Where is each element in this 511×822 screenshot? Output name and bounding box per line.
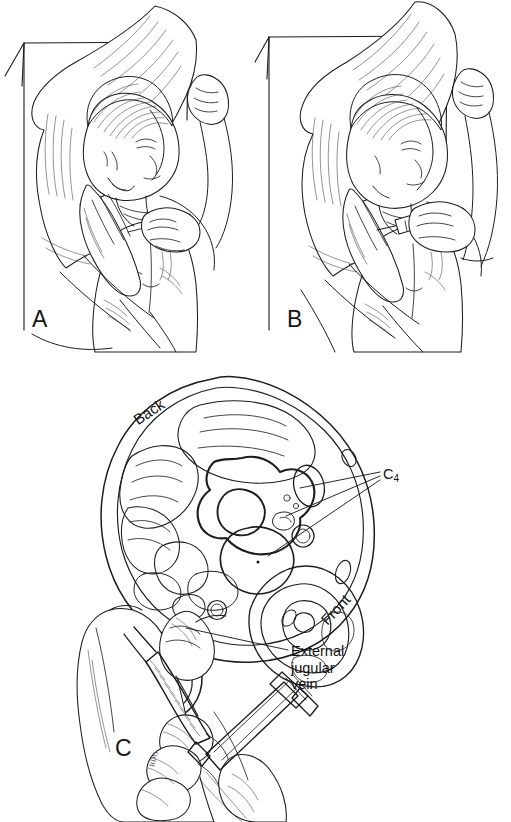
label-c4: C4 xyxy=(383,466,399,485)
panel-c: Back Front C4 External jugular vein BDG … xyxy=(0,360,511,822)
panel-b-letter: B xyxy=(287,306,303,333)
label-ejv-line-3: vein xyxy=(291,676,344,693)
operator-hand-with-syringe xyxy=(77,609,286,822)
panel-a: A xyxy=(0,0,256,352)
thumb xyxy=(219,755,287,822)
panel-c-letter: C xyxy=(115,735,132,762)
panel-a-letter: A xyxy=(32,306,48,333)
figure-cervical-plexus-block: A xyxy=(0,0,511,822)
label-external-jugular-vein: External jugular vein xyxy=(291,643,344,693)
label-c4-text: C xyxy=(383,466,393,482)
panel-b: B xyxy=(255,0,511,352)
vertebra-c4 xyxy=(198,457,315,594)
label-ejv-line-1: External xyxy=(291,643,344,660)
label-ejv-line-2: jugular xyxy=(291,660,344,677)
label-c4-subscript: 4 xyxy=(393,473,399,484)
